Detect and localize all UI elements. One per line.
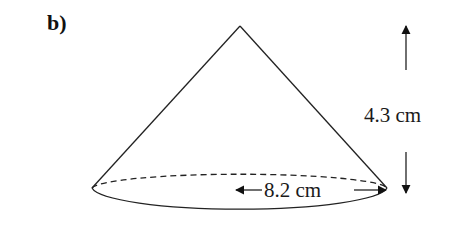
cone-diagram: 4.3 cm 8.2 cm (0, 0, 449, 226)
cone-outline (92, 26, 387, 209)
base-back-edge (92, 174, 387, 188)
base-front-edge (92, 188, 387, 209)
height-dimension: 4.3 cm (364, 26, 421, 193)
base-label: 8.2 cm (264, 178, 321, 202)
height-label: 4.3 cm (364, 103, 421, 127)
